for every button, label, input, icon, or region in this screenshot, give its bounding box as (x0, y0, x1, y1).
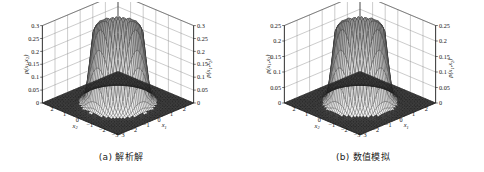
svg-text:0: 0 (157, 116, 160, 123)
svg-text:−2: −2 (131, 126, 138, 133)
svg-text:−2: −2 (341, 126, 348, 133)
svg-text:0.1: 0.1 (31, 73, 39, 80)
svg-text:0.05: 0.05 (197, 86, 208, 93)
svg-text:0.05: 0.05 (28, 86, 39, 93)
figure-two-surface-plots: 00.050.10.150.20.250.300.050.10.150.20.2… (0, 0, 484, 172)
svg-text:p(x1,x2): p(x1,x2) (264, 55, 273, 75)
svg-text:−1: −1 (143, 121, 150, 128)
svg-text:0: 0 (197, 99, 200, 106)
svg-text:0: 0 (318, 116, 321, 123)
svg-text:−1: −1 (87, 121, 94, 128)
svg-text:1: 1 (305, 110, 308, 117)
svg-text:2: 2 (183, 105, 186, 112)
svg-text:−1: −1 (385, 121, 392, 128)
svg-text:0: 0 (399, 116, 402, 123)
svg-text:0: 0 (36, 99, 39, 106)
svg-text:0.2: 0.2 (273, 37, 281, 44)
svg-text:0.25: 0.25 (197, 35, 208, 42)
svg-text:0: 0 (76, 116, 79, 123)
svg-text:x1: x1 (161, 121, 167, 130)
svg-text:0.25: 0.25 (439, 22, 450, 29)
svg-text:p(x1,x2): p(x1,x2) (446, 59, 455, 79)
svg-text:−3: −3 (360, 131, 367, 138)
surface-plot-a: 00.050.10.150.20.250.300.050.10.150.20.2… (0, 2, 242, 146)
svg-text:0: 0 (278, 99, 281, 106)
svg-text:x2: x2 (314, 122, 321, 131)
svg-text:−2: −2 (99, 126, 106, 133)
svg-text:0.3: 0.3 (197, 22, 205, 29)
svg-text:−3: −3 (118, 131, 125, 138)
svg-text:0.05: 0.05 (439, 84, 450, 91)
svg-text:0.2: 0.2 (31, 48, 39, 55)
plot-canvas-b: 00.050.10.150.20.2500.050.10.150.20.2521… (242, 2, 484, 146)
svg-text:x2: x2 (72, 122, 79, 131)
svg-text:0.2: 0.2 (439, 37, 447, 44)
svg-text:1: 1 (412, 110, 415, 117)
svg-text:0.1: 0.1 (273, 68, 281, 75)
svg-text:−2: −2 (373, 126, 380, 133)
svg-text:1: 1 (63, 110, 66, 117)
surface-plot-b: 00.050.10.150.20.2500.050.10.150.20.2521… (242, 2, 484, 146)
svg-text:2: 2 (425, 105, 428, 112)
plot-canvas-a: 00.050.10.150.20.250.300.050.10.150.20.2… (0, 2, 242, 146)
svg-text:−1: −1 (329, 121, 336, 128)
svg-text:1: 1 (170, 110, 173, 117)
svg-text:0.25: 0.25 (28, 35, 39, 42)
svg-text:0: 0 (439, 99, 442, 106)
svg-text:p(x1,x2): p(x1,x2) (22, 55, 31, 75)
svg-text:2: 2 (50, 105, 53, 112)
svg-text:0.25: 0.25 (270, 22, 281, 29)
caption-panel-b: (b) 数值模拟 (242, 146, 484, 170)
panel-b: 00.050.10.150.20.2500.050.10.150.20.2521… (242, 0, 484, 172)
panel-a: 00.050.10.150.20.250.300.050.10.150.20.2… (0, 0, 242, 172)
caption-panel-a: (a) 解析解 (0, 146, 242, 170)
svg-text:p(x1,x2): p(x1,x2) (204, 59, 213, 79)
svg-text:0.2: 0.2 (197, 48, 205, 55)
svg-text:0.3: 0.3 (31, 22, 39, 29)
svg-text:x1: x1 (403, 121, 409, 130)
svg-text:2: 2 (292, 105, 295, 112)
svg-text:0.05: 0.05 (270, 84, 281, 91)
